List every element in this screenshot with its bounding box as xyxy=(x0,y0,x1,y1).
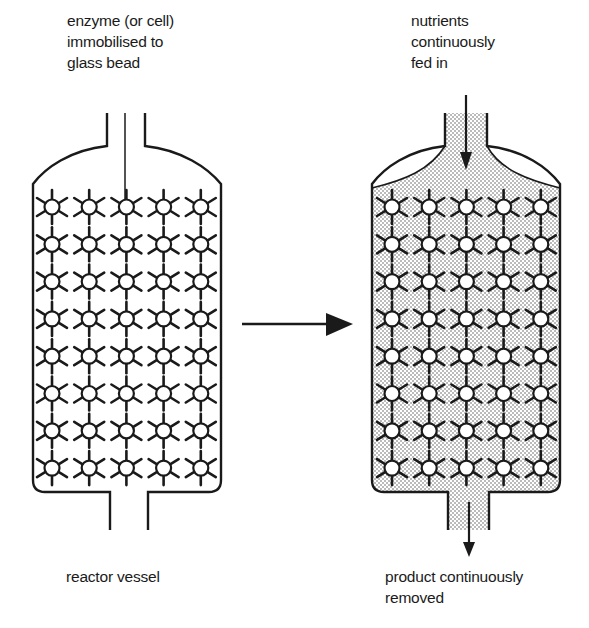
glass-bead-icon xyxy=(111,302,141,336)
glass-bead-icon xyxy=(74,190,104,224)
glass-bead-icon xyxy=(37,302,67,336)
glass-bead-icon xyxy=(186,190,216,224)
glass-bead-icon xyxy=(149,190,179,224)
glass-bead-icon xyxy=(111,414,141,448)
glass-bead-icon xyxy=(37,339,67,373)
glass-bead-icon xyxy=(149,377,179,411)
glass-bead-icon xyxy=(74,414,104,448)
glass-bead-icon xyxy=(37,414,67,448)
glass-bead-icon xyxy=(74,302,104,336)
glass-bead-icon xyxy=(37,377,67,411)
glass-bead-icon xyxy=(74,377,104,411)
glass-bead-icon xyxy=(37,451,67,485)
glass-bead-icon xyxy=(186,451,216,485)
glass-bead-icon xyxy=(74,451,104,485)
glass-bead-icon xyxy=(111,265,141,299)
arrow-right-icon xyxy=(242,313,353,336)
glass-bead-icon xyxy=(149,265,179,299)
glass-bead-icon xyxy=(186,227,216,261)
glass-bead-icon xyxy=(149,414,179,448)
glass-bead-icon xyxy=(186,265,216,299)
glass-bead-icon xyxy=(111,190,141,224)
glass-bead-icon xyxy=(149,339,179,373)
glass-bead-icon xyxy=(186,339,216,373)
glass-bead-icon xyxy=(111,451,141,485)
glass-bead-icon xyxy=(186,377,216,411)
reactor-diagram xyxy=(0,0,589,628)
glass-bead-icon xyxy=(37,227,67,261)
glass-bead-icon xyxy=(149,451,179,485)
glass-bead-icon xyxy=(111,227,141,261)
left-bead-grid xyxy=(37,190,216,485)
glass-bead-icon xyxy=(37,265,67,299)
glass-bead-icon xyxy=(74,227,104,261)
glass-bead-icon xyxy=(186,302,216,336)
glass-bead-icon xyxy=(111,377,141,411)
glass-bead-icon xyxy=(186,414,216,448)
glass-bead-icon xyxy=(149,227,179,261)
glass-bead-icon xyxy=(74,339,104,373)
glass-bead-icon xyxy=(149,302,179,336)
glass-bead-icon xyxy=(74,265,104,299)
glass-bead-icon xyxy=(111,339,141,373)
glass-bead-icon xyxy=(37,190,67,224)
